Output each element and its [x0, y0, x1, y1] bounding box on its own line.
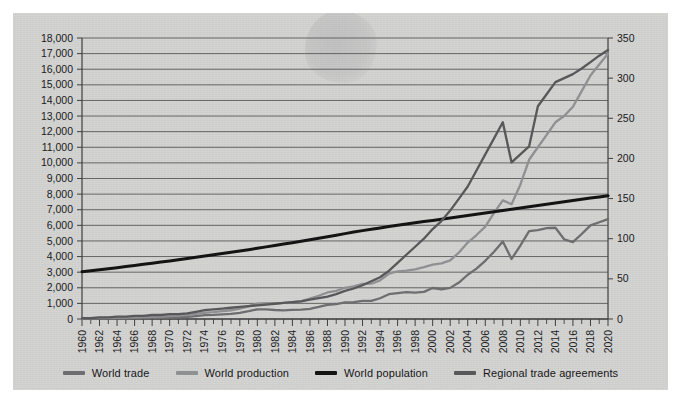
x-tick-label: 2000	[426, 330, 438, 354]
y-tick-label-left: 17,000	[41, 47, 73, 59]
x-tick-label: 1988	[321, 330, 333, 354]
legend-label: World population	[344, 367, 428, 379]
series-line-world-population	[82, 196, 608, 272]
legend-line-swatch-icon	[176, 371, 198, 374]
x-tick-label: 2004	[461, 330, 473, 354]
y-tick-label-right: 250	[617, 112, 635, 124]
chart-figure: 01,0002,0003,0004,0005,0006,0007,0008,00…	[13, 13, 668, 390]
y-tick-label-left: 14,000	[41, 94, 73, 106]
x-tick-label: 1978	[234, 330, 246, 354]
y-tick-label-left: 18,000	[41, 32, 73, 44]
x-tick-label: 1990	[339, 330, 351, 354]
y-tick-label-left: 15,000	[41, 78, 73, 90]
series-line-world-production	[82, 54, 608, 319]
x-tick-label: 1962	[93, 330, 105, 354]
x-tick-label: 2018	[584, 330, 596, 354]
y-tick-label-left: 12,000	[41, 125, 73, 137]
gridlines	[82, 38, 608, 319]
legend-item: Regional trade agreements	[454, 367, 618, 379]
x-tick-label: 1986	[304, 330, 316, 354]
y-axis-right: 050100150200250300350	[608, 32, 635, 325]
x-tick-label: 2020	[602, 330, 614, 354]
y-tick-label-right: 300	[617, 72, 635, 84]
chart-page: 01,0002,0003,0004,0005,0006,0007,0008,00…	[0, 0, 681, 403]
x-tick-label: 2016	[567, 330, 579, 354]
x-tick-label: 1976	[216, 330, 228, 354]
y-tick-label-left: 2,000	[47, 281, 73, 293]
x-tick-label: 2014	[549, 330, 561, 354]
x-tick-label: 1972	[181, 330, 193, 354]
x-tick-label: 1960	[76, 330, 88, 354]
y-tick-label-right: 50	[617, 272, 629, 284]
legend-item: World production	[176, 367, 290, 379]
y-tick-label-left: 16,000	[41, 63, 73, 75]
y-tick-label-left: 10,000	[41, 156, 73, 168]
x-tick-label: 1968	[146, 330, 158, 354]
y-axis-left: 01,0002,0003,0004,0005,0006,0007,0008,00…	[41, 32, 82, 325]
x-tick-label: 1998	[409, 330, 421, 354]
y-tick-label-left: 9,000	[47, 172, 73, 184]
legend-line-swatch-icon	[63, 371, 85, 374]
legend-item: World population	[315, 367, 428, 379]
chart-legend: World tradeWorld productionWorld populat…	[13, 362, 668, 384]
x-tick-label: 1994	[374, 330, 386, 354]
y-tick-label-right: 100	[617, 232, 635, 244]
x-tick-label: 1980	[251, 330, 263, 354]
x-tick-label: 2006	[479, 330, 491, 354]
x-tick-label: 1966	[128, 330, 140, 354]
x-tick-label: 1970	[163, 330, 175, 354]
legend-line-swatch-icon	[315, 371, 337, 374]
y-tick-label-left: 6,000	[47, 219, 73, 231]
x-tick-label: 1996	[391, 330, 403, 354]
y-tick-label-right: 0	[617, 313, 623, 325]
y-tick-label-left: 4,000	[47, 250, 73, 262]
legend-line-swatch-icon	[454, 371, 476, 374]
plot-area: 01,0002,0003,0004,0005,0006,0007,0008,00…	[13, 13, 668, 390]
legend-label: World trade	[92, 367, 150, 379]
y-tick-label-left: 3,000	[47, 266, 73, 278]
y-tick-label-left: 13,000	[41, 110, 73, 122]
line-chart-svg: 01,0002,0003,0004,0005,0006,0007,0008,00…	[13, 13, 668, 390]
x-tick-label: 1992	[356, 330, 368, 354]
legend-label: World production	[205, 367, 290, 379]
y-tick-label-right: 150	[617, 192, 635, 204]
legend-item: World trade	[63, 367, 150, 379]
y-tick-label-right: 200	[617, 152, 635, 164]
y-tick-label-left: 11,000	[42, 141, 73, 153]
x-tick-label: 2012	[532, 330, 544, 354]
x-tick-label: 1984	[286, 330, 298, 354]
x-tick-label: 1982	[269, 330, 281, 354]
x-axis: 1960196219641966196819701972197419761978…	[76, 319, 614, 353]
y-tick-label-left: 8,000	[47, 188, 73, 200]
legend-label: Regional trade agreements	[483, 367, 618, 379]
series-group	[82, 50, 608, 319]
y-tick-label-left: 7,000	[47, 203, 73, 215]
x-tick-label: 2002	[444, 330, 456, 354]
y-tick-label-right: 350	[617, 32, 635, 44]
x-tick-label: 1974	[198, 330, 210, 354]
series-line-regional-trade-agreements	[82, 50, 608, 318]
y-tick-label-left: 5,000	[47, 235, 73, 247]
x-tick-label: 2008	[497, 330, 509, 354]
y-tick-label-left: 0	[67, 313, 73, 325]
x-tick-label: 1964	[111, 330, 123, 354]
y-tick-label-left: 1,000	[47, 297, 73, 309]
x-tick-label: 2010	[514, 330, 526, 354]
